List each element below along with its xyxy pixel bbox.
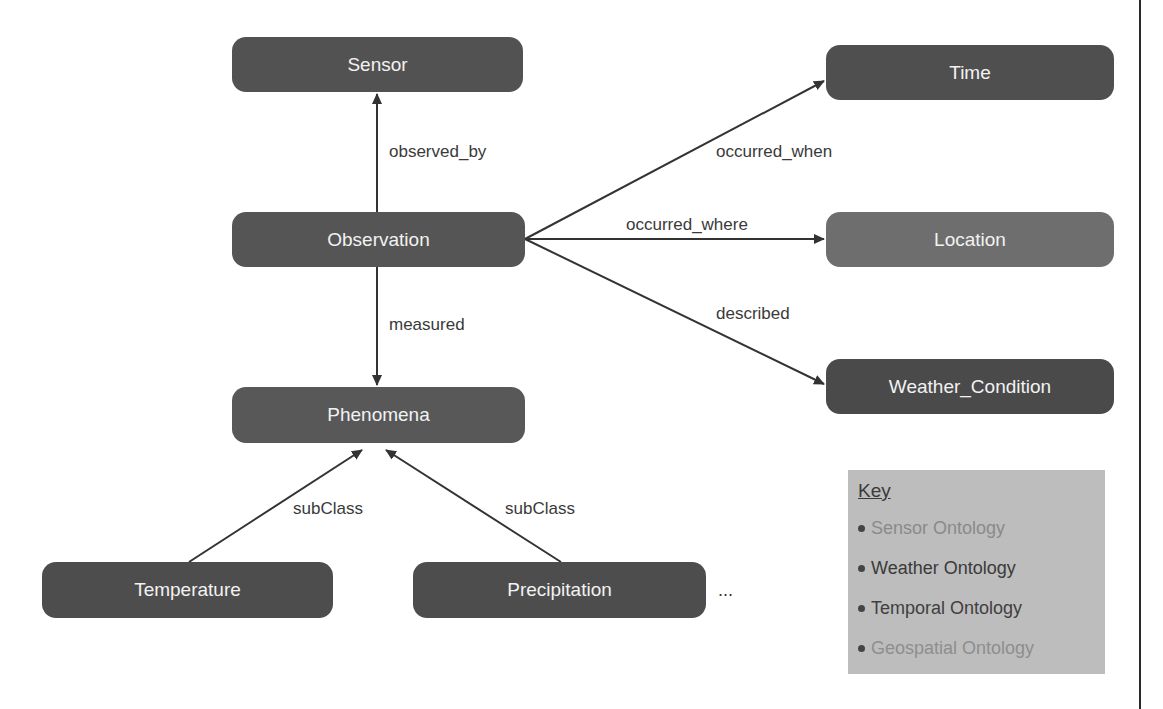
node-temperature: Temperature bbox=[42, 562, 333, 618]
bullet-icon bbox=[858, 645, 865, 652]
node-weather-condition: Weather_Condition bbox=[826, 359, 1114, 414]
legend-item-weather: Weather Ontology bbox=[858, 548, 1105, 588]
bullet-icon bbox=[858, 605, 865, 612]
bullet-icon bbox=[858, 565, 865, 572]
legend-label: Weather Ontology bbox=[871, 551, 1016, 585]
node-observation: Observation bbox=[232, 212, 525, 267]
edge-label-described: described bbox=[716, 304, 790, 324]
node-sensor: Sensor bbox=[232, 37, 523, 92]
node-label: Location bbox=[934, 229, 1006, 251]
legend-item-sensor: Sensor Ontology bbox=[858, 508, 1105, 548]
node-label: Sensor bbox=[347, 54, 407, 76]
node-label: Observation bbox=[327, 229, 429, 251]
legend-title: Key bbox=[858, 480, 1105, 502]
legend-item-temporal: Temporal Ontology bbox=[858, 588, 1105, 628]
node-label: Temperature bbox=[134, 579, 241, 601]
node-label: Phenomena bbox=[327, 404, 429, 426]
legend-item-geospatial: Geospatial Ontology bbox=[858, 628, 1105, 668]
node-precipitation: Precipitation bbox=[413, 562, 706, 618]
edge-label-observed-by: observed_by bbox=[389, 142, 486, 162]
edge-label-occurred-when: occurred_when bbox=[716, 142, 832, 162]
edge-label-subclass-precipitation: subClass bbox=[505, 499, 575, 519]
node-label: Weather_Condition bbox=[889, 376, 1051, 398]
edge-label-measured: measured bbox=[389, 315, 465, 335]
legend-label: Geospatial Ontology bbox=[871, 631, 1034, 665]
node-label: Time bbox=[949, 62, 991, 84]
edge-label-subclass-temperature: subClass bbox=[293, 499, 363, 519]
node-time: Time bbox=[826, 45, 1114, 100]
legend-label: Sensor Ontology bbox=[871, 511, 1005, 545]
legend-label: Temporal Ontology bbox=[871, 591, 1022, 625]
bullet-icon bbox=[858, 525, 865, 532]
edge-label-occurred-where: occurred_where bbox=[626, 215, 748, 235]
more-indicator: ... bbox=[718, 580, 733, 601]
node-location: Location bbox=[826, 212, 1114, 267]
legend-key: Key Sensor Ontology Weather Ontology Tem… bbox=[848, 470, 1105, 674]
node-label: Precipitation bbox=[507, 579, 612, 601]
page-border-line bbox=[1139, 0, 1141, 709]
node-phenomena: Phenomena bbox=[232, 387, 525, 443]
